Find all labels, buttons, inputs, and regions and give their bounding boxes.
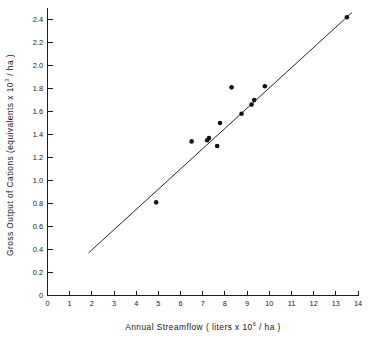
fit-line-segment [89,13,352,253]
x-tick-label: 0 [45,299,49,308]
plot-canvas: 00.20.40.60.81.01.21.41.61.82.02.22.4 01… [0,0,368,337]
data-point [229,85,234,90]
data-point [345,15,350,20]
data-point [215,144,220,149]
data-point [218,121,223,126]
x-axis-title-prefix: Annual Streamflow ( liters x 10 [125,322,253,332]
data-point [263,84,268,89]
y-tick-label: 2.2 [33,38,43,47]
x-tick-label: 4 [134,299,138,308]
data-points-group [154,15,349,205]
y-tick-label: 0 [39,291,43,300]
y-tick-label: 0.4 [33,245,43,254]
y-tick-label: 1.8 [33,84,43,93]
y-axis-title-prefix: Gross Output of Cations (equivalents x 1… [5,82,15,256]
data-point [189,139,194,144]
x-tick-label: 14 [354,299,362,308]
x-tick-label: 1 [68,299,72,308]
x-tick-label: 10 [265,299,273,308]
y-tick-label: 1.6 [33,107,43,116]
x-axis-title-suffix: / ha ) [256,322,281,332]
regression-line [89,13,352,253]
x-tick-label: 5 [156,299,160,308]
y-tick-label: 0.6 [33,222,43,231]
y-tick-label: 2.4 [33,15,43,24]
y-axis-title-suffix: / ha ) [5,54,15,79]
data-point [252,98,257,103]
x-tick-label: 7 [201,299,205,308]
data-point [239,112,244,117]
x-tick-label: 6 [179,299,183,308]
y-tick-label: 0.8 [33,199,43,208]
scatter-plot-figure: 00.20.40.60.81.01.21.41.61.82.02.22.4 01… [0,0,368,337]
y-tick-label: 1.2 [33,153,43,162]
x-axis-ticks: 01234567891011121314 [45,291,362,309]
y-axis-ticks: 00.20.40.60.81.01.21.41.61.82.02.22.4 [33,15,53,300]
x-tick-label: 3 [112,299,116,308]
x-tick-label: 13 [332,299,340,308]
y-tick-label: 0.2 [33,268,43,277]
axes-group [48,8,359,296]
y-axis-title: Gross Output of Cations (equivalents x 1… [4,54,15,256]
y-tick-label: 1.0 [33,176,43,185]
x-tick-label: 9 [245,299,249,308]
data-point [154,200,159,205]
x-axis-title: Annual Streamflow ( liters x 106 / ha ) [125,321,281,332]
x-tick-label: 12 [310,299,318,308]
x-tick-label: 2 [90,299,94,308]
y-tick-label: 1.4 [33,130,43,139]
data-point [207,136,212,141]
y-tick-label: 2.0 [33,61,43,70]
x-tick-label: 11 [288,299,296,308]
x-tick-label: 8 [223,299,227,308]
data-point [249,102,254,107]
